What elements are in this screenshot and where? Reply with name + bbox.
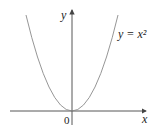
curve-annotation: y = x²: [118, 28, 146, 40]
plot-canvas: [0, 0, 156, 135]
x-axis-label: x: [142, 113, 147, 125]
parabola-figure: y x 0 y = x²: [0, 0, 156, 135]
y-axis-label: y: [61, 9, 66, 21]
origin-label: 0: [64, 115, 70, 126]
